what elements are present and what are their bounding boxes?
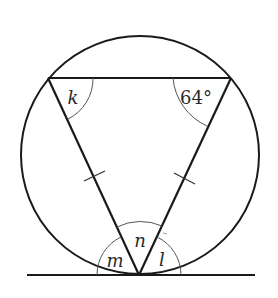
angle-label-k: k xyxy=(68,89,79,107)
geometry-figure: k 64° n m l xyxy=(0,0,278,298)
angle-label-l: l xyxy=(159,251,165,269)
angle-label-m: m xyxy=(106,252,123,270)
angle-label-n: n xyxy=(134,232,146,250)
stray-mark xyxy=(163,233,167,234)
equal-tick-right xyxy=(174,173,195,184)
figure-svg xyxy=(0,0,278,298)
angle-label-64: 64° xyxy=(180,89,212,107)
angle-arc-n xyxy=(117,221,162,227)
